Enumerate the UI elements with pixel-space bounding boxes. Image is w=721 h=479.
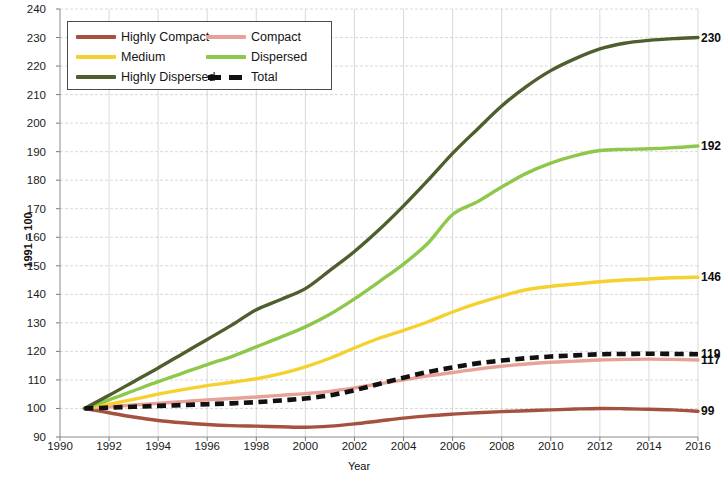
legend-swatch <box>76 55 116 59</box>
legend-swatch <box>206 75 246 80</box>
x-tick-label: 2000 <box>293 440 319 452</box>
x-tick-label: 2010 <box>538 440 564 452</box>
x-tick-label: 2008 <box>489 440 515 452</box>
legend-label: Highly Dispersed <box>121 70 215 84</box>
series-end-label: 119 <box>701 347 720 361</box>
legend-entry[interactable]: Total <box>206 70 328 84</box>
y-tick-label: 90 <box>8 431 50 443</box>
series-end-label: 99 <box>701 404 714 418</box>
y-tick-label: 230 <box>8 32 50 44</box>
y-tick-label: 100 <box>8 402 50 414</box>
legend-swatch <box>206 35 246 39</box>
x-tick-label: 2016 <box>685 440 711 452</box>
series-end-label: 146 <box>701 270 721 284</box>
y-axis-title: 1991 = 100 <box>22 212 34 267</box>
y-tick-label: 130 <box>8 317 50 329</box>
x-tick-label: 2014 <box>636 440 662 452</box>
x-tick-label: 1990 <box>47 440 73 452</box>
legend-label: Medium <box>121 50 165 64</box>
legend-label: Highly Compact <box>121 30 209 44</box>
x-tick-label: 2012 <box>587 440 613 452</box>
x-tick-label: 2002 <box>342 440 368 452</box>
series-end-label: 230 <box>701 31 721 45</box>
series-line <box>85 354 698 409</box>
legend-swatch <box>206 55 246 59</box>
series-line <box>85 277 698 408</box>
series-lines <box>85 38 698 428</box>
legend-swatch <box>76 75 116 79</box>
y-tick-label: 220 <box>8 60 50 72</box>
y-tick-label: 180 <box>8 174 50 186</box>
x-tick-label: 2004 <box>391 440 417 452</box>
series-line <box>85 359 698 408</box>
legend-label: Total <box>251 70 277 84</box>
y-tick-label: 140 <box>8 288 50 300</box>
x-tick-label: 1996 <box>194 440 220 452</box>
x-tick-label: 1998 <box>244 440 270 452</box>
legend-swatch <box>76 35 116 39</box>
x-tick-label: 1994 <box>145 440 171 452</box>
y-tick-label: 210 <box>8 89 50 101</box>
x-axis-title: Year <box>0 460 718 472</box>
legend-entry[interactable]: Dispersed <box>206 50 328 64</box>
x-tick-label: 2006 <box>440 440 466 452</box>
y-tick-label: 240 <box>8 3 50 15</box>
legend-entry[interactable]: Highly Compact <box>76 30 206 44</box>
series-end-label: 192 <box>701 139 721 153</box>
legend-entry[interactable]: Highly Dispersed <box>76 70 206 84</box>
y-tick-label: 110 <box>8 374 50 386</box>
legend-entry[interactable]: Compact <box>206 30 328 44</box>
legend-entry[interactable]: Medium <box>76 50 206 64</box>
y-tick-label: 200 <box>8 117 50 129</box>
x-tick-label: 1992 <box>96 440 122 452</box>
legend-label: Compact <box>251 30 301 44</box>
series-line <box>85 408 698 427</box>
y-tick-label: 120 <box>8 345 50 357</box>
legend-label: Dispersed <box>251 50 307 64</box>
legend: Highly CompactCompactMediumDispersedHigh… <box>67 21 332 90</box>
y-tick-label: 190 <box>8 146 50 158</box>
series-line <box>85 146 698 409</box>
